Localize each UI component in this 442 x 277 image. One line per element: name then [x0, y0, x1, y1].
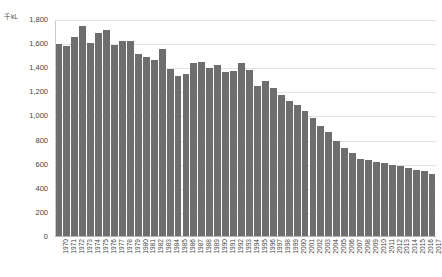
bar — [190, 63, 197, 237]
x-axis-tick: 1992 — [230, 239, 238, 277]
bar — [95, 33, 102, 237]
x-axis-tick: 1983 — [158, 239, 166, 277]
x-axis-tick: 1974 — [87, 239, 95, 277]
bar — [71, 37, 78, 237]
x-axis-tick: 2004 — [325, 239, 333, 277]
bar — [302, 111, 309, 237]
x-axis-tick: 1978 — [119, 239, 127, 277]
x-axis-tick: 1990 — [214, 239, 222, 277]
bar — [421, 171, 428, 237]
bar — [310, 118, 317, 237]
y-axis-tick-label: 200 — [35, 209, 48, 217]
bar — [246, 70, 253, 237]
x-axis-tick: 1985 — [174, 239, 182, 277]
bar — [397, 166, 404, 237]
bar — [262, 81, 269, 237]
bar — [357, 159, 364, 237]
x-axis-tick: 1996 — [261, 239, 269, 277]
plot-area — [55, 20, 436, 237]
x-axis: 1970197119721973197419751976197719781979… — [55, 239, 436, 277]
x-axis-tick: 1988 — [198, 239, 206, 277]
x-axis-tick: 1977 — [111, 239, 119, 277]
bar — [341, 148, 348, 237]
bar — [373, 162, 380, 237]
bar — [119, 41, 126, 237]
x-axis-tick: 2007 — [349, 239, 357, 277]
x-axis-tick: 1970 — [55, 239, 63, 277]
x-axis-tick: 2011 — [380, 239, 388, 277]
bar — [127, 41, 134, 238]
y-axis-tick-label: 800 — [35, 137, 48, 145]
bar — [63, 46, 70, 237]
x-axis-tick: 2013 — [396, 239, 404, 277]
bar — [159, 49, 166, 237]
bar — [230, 71, 237, 237]
bar — [333, 141, 340, 237]
bar — [325, 132, 332, 237]
x-axis-tick: 1971 — [63, 239, 71, 277]
x-axis-tick: 2017 — [428, 239, 436, 277]
bar — [135, 54, 142, 237]
bar — [183, 74, 190, 237]
x-axis-tick: 1989 — [206, 239, 214, 277]
bar — [429, 174, 436, 237]
bar — [365, 160, 372, 237]
x-axis-tick: 1980 — [134, 239, 142, 277]
x-axis-tick: 1973 — [79, 239, 87, 277]
bar-series — [55, 20, 436, 237]
x-axis-tick: 1994 — [246, 239, 254, 277]
bar — [317, 126, 324, 237]
bar — [175, 76, 182, 237]
x-axis-tick: 1976 — [103, 239, 111, 277]
y-axis-tick-label: 600 — [35, 161, 48, 169]
x-axis-tick: 2000 — [293, 239, 301, 277]
bar — [294, 105, 301, 237]
bar — [198, 62, 205, 237]
bar — [222, 72, 229, 237]
x-axis-tick: 1972 — [71, 239, 79, 277]
y-axis-tick-label: 400 — [35, 185, 48, 193]
x-axis-tick: 1997 — [269, 239, 277, 277]
x-axis-tick: 2010 — [373, 239, 381, 277]
bar — [79, 26, 86, 237]
x-axis-tick: 1984 — [166, 239, 174, 277]
bar — [286, 101, 293, 237]
x-axis-tick: 1987 — [190, 239, 198, 277]
y-axis-tick-label: 1,600 — [29, 40, 48, 48]
x-axis-tick: 1981 — [142, 239, 150, 277]
bar — [214, 65, 221, 237]
bar — [278, 95, 285, 237]
bar — [111, 45, 118, 237]
x-axis-tick: 1975 — [95, 239, 103, 277]
x-axis-tick: 2009 — [365, 239, 373, 277]
y-axis-tick-label: 1,000 — [29, 112, 48, 120]
x-axis-tick: 2008 — [357, 239, 365, 277]
bar — [206, 68, 213, 237]
y-axis-tick-label: 0 — [44, 233, 48, 241]
bar — [238, 63, 245, 237]
bar — [389, 165, 396, 237]
x-axis-tick: 2014 — [404, 239, 412, 277]
x-axis-tick: 2002 — [309, 239, 317, 277]
bar — [87, 43, 94, 237]
bar — [254, 86, 261, 237]
bar — [381, 163, 388, 237]
bar — [103, 30, 110, 237]
x-axis-line — [55, 236, 436, 237]
x-axis-tick: 1999 — [285, 239, 293, 277]
x-axis-tick: 1982 — [150, 239, 158, 277]
x-axis-tick-label: 2017 — [435, 239, 442, 254]
bar — [151, 60, 158, 237]
x-axis-tick: 2005 — [333, 239, 341, 277]
bar — [56, 44, 63, 237]
x-axis-tick: 2006 — [341, 239, 349, 277]
y-axis-tick-label: 1,800 — [29, 16, 48, 24]
x-axis-tick: 1995 — [253, 239, 261, 277]
bar — [413, 170, 420, 238]
x-axis-tick: 1986 — [182, 239, 190, 277]
x-axis-tick: 2001 — [301, 239, 309, 277]
y-axis-tick-label: 1,400 — [29, 64, 48, 72]
x-axis-tick: 2016 — [420, 239, 428, 277]
x-axis-tick: 2012 — [388, 239, 396, 277]
